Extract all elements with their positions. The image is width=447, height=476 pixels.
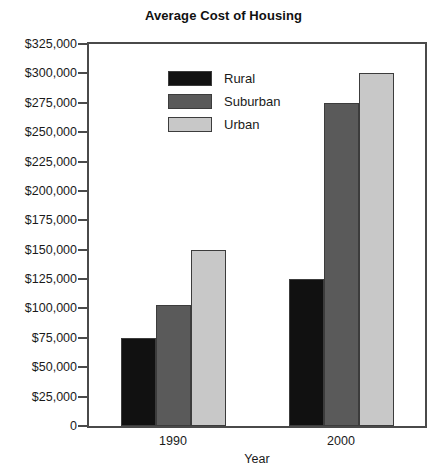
y-axis: $325,000$300,000$275,000$250,000$225,000…	[0, 42, 87, 428]
y-axis-tick-label: $125,000	[25, 272, 77, 286]
y-axis-tick-label: 0	[70, 419, 77, 433]
x-axis-title: Year	[87, 452, 427, 466]
bar-rural-2000	[289, 279, 324, 426]
y-axis-tick-label: $200,000	[25, 184, 77, 198]
x-axis-tick-label: 2000	[301, 434, 381, 448]
y-axis-tick-mark	[78, 219, 87, 221]
y-axis-tick-label: $225,000	[25, 155, 77, 169]
legend-item-suburban: Suburban	[168, 91, 280, 112]
y-axis-tick-mark	[78, 190, 87, 192]
y-axis-tick-label: $325,000	[25, 37, 77, 51]
bar-group	[257, 44, 425, 426]
legend-item-label: Suburban	[224, 94, 280, 109]
y-axis-tick-label: $275,000	[25, 96, 77, 110]
y-axis-tick-label: $300,000	[25, 66, 77, 80]
y-axis-tick-mark	[78, 337, 87, 339]
bar-urban-2000	[359, 73, 394, 426]
y-axis-tick-label: $150,000	[25, 243, 77, 257]
y-axis-tick-label: $25,000	[32, 390, 77, 404]
legend-swatch-icon	[168, 94, 212, 109]
legend-item-label: Urban	[224, 117, 259, 132]
bar-chart: Average Cost of Housing $325,000$300,000…	[0, 0, 447, 476]
y-axis-tick-mark	[78, 249, 87, 251]
bar-rural-1990	[121, 338, 156, 426]
y-axis-tick-mark	[78, 396, 87, 398]
y-axis-tick-label: $50,000	[32, 360, 77, 374]
legend-item-label: Rural	[224, 71, 255, 86]
y-axis-tick-mark	[78, 161, 87, 163]
y-axis-tick-label: $75,000	[32, 331, 77, 345]
y-axis-tick-label: $100,000	[25, 301, 77, 315]
y-axis-tick-label: $175,000	[25, 213, 77, 227]
y-axis-tick-mark	[78, 131, 87, 133]
x-axis-tick-label: 1990	[133, 434, 213, 448]
y-axis-tick-mark	[78, 102, 87, 104]
y-axis-tick-mark	[78, 307, 87, 309]
y-axis-tick-mark	[78, 278, 87, 280]
y-axis-tick-mark	[78, 43, 87, 45]
bar-suburban-1990	[156, 305, 191, 426]
chart-title: Average Cost of Housing	[0, 8, 447, 23]
bar-urban-1990	[191, 250, 226, 426]
y-axis-tick-mark	[78, 72, 87, 74]
legend-swatch-icon	[168, 117, 212, 132]
y-axis-tick-label: $250,000	[25, 125, 77, 139]
y-axis-tick-mark	[78, 425, 87, 427]
y-axis-tick-mark	[78, 366, 87, 368]
legend-item-urban: Urban	[168, 114, 280, 135]
bar-suburban-2000	[324, 103, 359, 426]
legend-item-rural: Rural	[168, 68, 280, 89]
x-axis: 19902000	[89, 428, 425, 454]
legend-swatch-icon	[168, 71, 212, 86]
chart-legend: RuralSuburbanUrban	[168, 68, 280, 137]
